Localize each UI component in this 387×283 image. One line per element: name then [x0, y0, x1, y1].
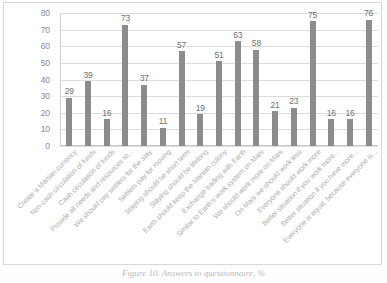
y-tick-label: 40: [41, 75, 50, 85]
bar-slot: 16: [322, 13, 341, 146]
bar-slot: 11: [154, 13, 173, 146]
y-tick-label: 60: [41, 41, 50, 51]
bar-value-label: 16: [327, 108, 336, 118]
y-tick-label: 70: [41, 25, 50, 35]
bar: [328, 119, 334, 146]
bar: [216, 61, 222, 146]
bar-value-label: 29: [65, 86, 74, 96]
bar-slot: 21: [266, 13, 285, 146]
bar: [253, 50, 259, 146]
bar: [310, 21, 316, 146]
bar: [122, 25, 128, 146]
bar: [104, 119, 110, 146]
bar: [366, 20, 372, 146]
y-tick-label: 0: [45, 141, 50, 151]
bar-slot: 73: [116, 13, 135, 146]
y-tick-label: 20: [41, 108, 50, 118]
bar-slot: 37: [135, 13, 154, 146]
bar: [85, 81, 91, 146]
bar: [291, 108, 297, 146]
bar-value-label: 51: [214, 50, 223, 60]
bar: [179, 51, 185, 146]
bar-slot: 58: [247, 13, 266, 146]
y-tick-label: 50: [41, 58, 50, 68]
y-tick-label: 10: [41, 124, 50, 134]
bar-value-label: 63: [233, 30, 242, 40]
bar-value-label: 21: [271, 100, 280, 110]
bar-slot: 57: [172, 13, 191, 146]
bar-slot: 39: [79, 13, 98, 146]
bar-slot: 16: [341, 13, 360, 146]
bar-value-label: 75: [308, 10, 317, 20]
bar: [235, 41, 241, 146]
bar-value-label: 76: [364, 8, 373, 18]
x-axis-category-labels: Create a Martian currencyNon-cash circul…: [60, 148, 378, 260]
y-tick-label: 80: [41, 8, 50, 18]
bar-value-label: 23: [289, 96, 298, 106]
bar-slot: 63: [228, 13, 247, 146]
chart-frame: 01020304050607080 2939167337115719516358…: [3, 2, 382, 265]
bar-value-label: 39: [84, 70, 93, 80]
gridline: [60, 146, 378, 147]
y-axis-tick-labels: 01020304050607080: [4, 13, 56, 146]
bar-slot: 76: [359, 13, 378, 146]
bar-value-label: 73: [121, 13, 130, 23]
bar-slot: 16: [97, 13, 116, 146]
bar-slot: 23: [284, 13, 303, 146]
bar: [272, 111, 278, 146]
bar-slot: 75: [303, 13, 322, 146]
figure-caption: Figure 10. Answers to questionnaire, %: [0, 268, 387, 283]
bar-value-label: 16: [345, 108, 354, 118]
bar: [347, 119, 353, 146]
bar-value-label: 19: [196, 103, 205, 113]
figure-container: 01020304050607080 2939167337115719516358…: [0, 0, 387, 283]
bar: [66, 98, 72, 146]
bar: [141, 85, 147, 147]
bar-value-label: 16: [102, 108, 111, 118]
bar-value-label: 57: [177, 40, 186, 50]
bar-value-label: 37: [140, 73, 149, 83]
plot-area: 2939167337115719516358212375161676: [60, 13, 378, 146]
y-tick-label: 30: [41, 91, 50, 101]
bar-slot: 29: [60, 13, 79, 146]
bar-slot: 19: [191, 13, 210, 146]
bar-value-label: 58: [252, 38, 261, 48]
bar-slot: 51: [210, 13, 229, 146]
bar: [197, 114, 203, 146]
bar: [160, 128, 166, 146]
bar-value-label: 11: [159, 116, 167, 126]
bar-series: 2939167337115719516358212375161676: [60, 13, 378, 146]
